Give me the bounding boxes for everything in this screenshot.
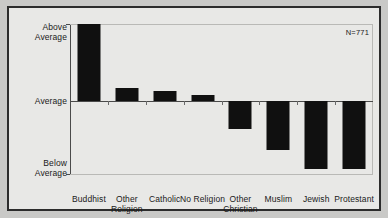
y-axis-label-above-average: Above Average: [15, 22, 67, 42]
bar-group: [222, 24, 260, 175]
bars-layer: BuddhistOther ReligionCatholicNo Religio…: [70, 24, 373, 175]
bar-group: [146, 24, 184, 175]
bar-group: [108, 24, 146, 175]
chart-figure-frame: Above Average Average Below Average Budd…: [7, 6, 381, 211]
bar[interactable]: [229, 101, 252, 129]
bar[interactable]: [305, 101, 328, 169]
bar[interactable]: [115, 88, 138, 101]
x-axis-tick: [184, 101, 185, 105]
y-axis-label-below-average: Below Average: [15, 158, 67, 178]
bar-group: [335, 24, 373, 175]
x-axis-tick: [259, 101, 260, 105]
y-axis-label-average: Average: [15, 96, 67, 106]
x-axis-tick: [146, 101, 147, 105]
x-axis-tick: [335, 101, 336, 105]
bar[interactable]: [343, 101, 366, 169]
plot-area: Above Average Average Below Average Budd…: [9, 8, 379, 209]
bar-group: [70, 24, 108, 175]
bar[interactable]: [153, 91, 176, 101]
x-axis-category-label: Protestant: [329, 194, 379, 204]
bar[interactable]: [77, 24, 100, 101]
bar[interactable]: [191, 95, 214, 101]
bar[interactable]: [267, 101, 290, 150]
x-axis-tick: [108, 101, 109, 105]
x-axis-tick: [222, 101, 223, 105]
x-axis-tick: [297, 101, 298, 105]
bar-group: [184, 24, 222, 175]
sample-size-annotation: N=771: [346, 28, 369, 37]
bar-group: [259, 24, 297, 175]
bar-group: [297, 24, 335, 175]
